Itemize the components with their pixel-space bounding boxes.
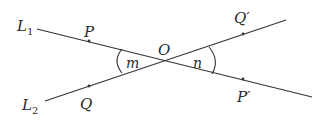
label-angle-n: n [193,55,202,71]
label-o: O [158,41,170,59]
label-l1: L1 [16,17,33,37]
label-p: P [83,23,95,41]
label-q-prime: Q′ [234,9,250,27]
angle-arc-n [209,47,215,74]
line-l1 [37,29,312,97]
label-angle-m: m [126,55,139,71]
geometry-diagram: L1 L2 O P Q Q′ P′ m n [0,0,331,122]
point-q-dot [88,85,91,88]
label-q: Q [80,95,92,113]
label-p-prime: P′ [236,88,251,106]
angle-arc-m [117,49,122,73]
point-p-prime-dot [242,78,245,81]
label-l2: L2 [21,96,38,116]
diagram-canvas: L1 L2 O P Q Q′ P′ m n [0,0,331,122]
point-q-prime-dot [242,33,245,36]
